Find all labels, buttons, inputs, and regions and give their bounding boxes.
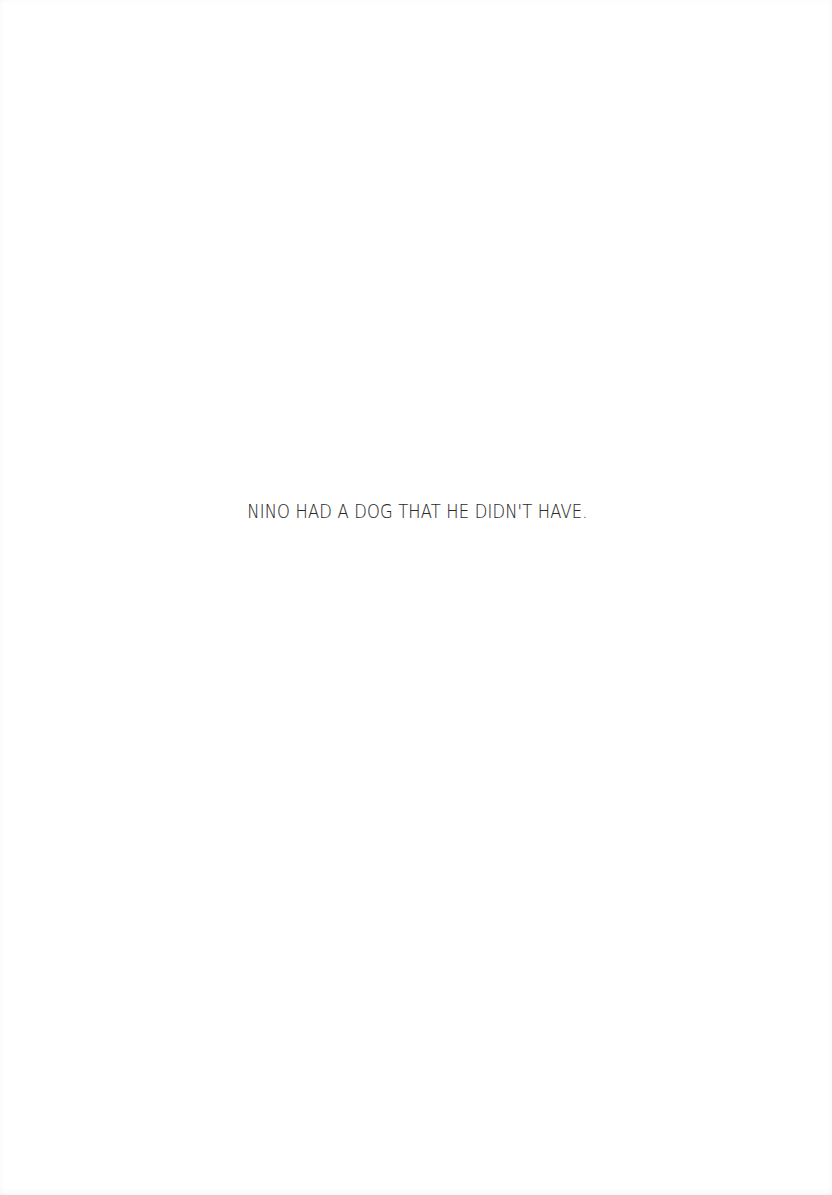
page-caption: NINO HAD A DOG THAT HE DIDN'T HAVE. <box>60 500 776 522</box>
book-page: NINO HAD A DOG THAT HE DIDN'T HAVE. <box>0 0 832 1195</box>
